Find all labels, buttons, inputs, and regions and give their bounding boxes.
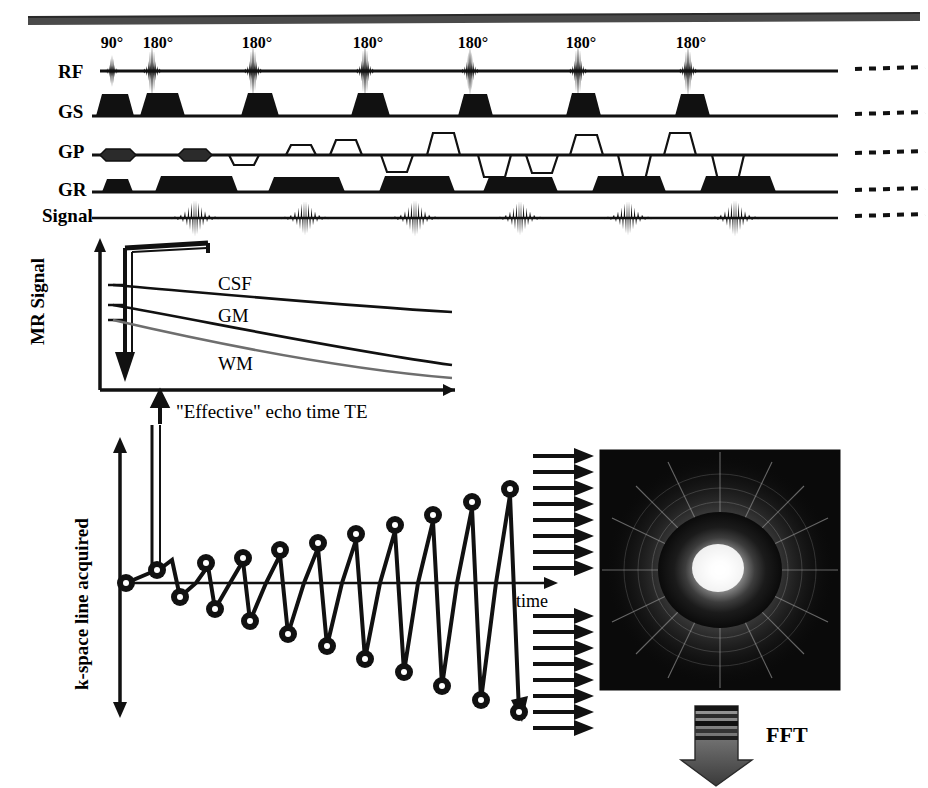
rf-label-180-4: 180° bbox=[458, 34, 488, 51]
channel-label-signal: Signal bbox=[42, 205, 93, 226]
decay-curve-label-csf: CSF bbox=[218, 273, 252, 294]
rf-label-90: 90° bbox=[101, 34, 123, 51]
rf-label-180-5: 180° bbox=[566, 34, 596, 51]
decay-curve-label-wm: WM bbox=[218, 353, 253, 374]
decay-x-axis-label: "Effective" echo time TE bbox=[176, 401, 368, 422]
rf-label-180-6: 180° bbox=[676, 34, 706, 51]
channel-label-rf: RF bbox=[58, 61, 83, 82]
kspace-time-label: time bbox=[516, 591, 548, 611]
mri-sequence-figure: RF GS GP GR Signal 90° 180° 180° 180° 18… bbox=[0, 0, 928, 788]
rf-label-180-2: 180° bbox=[242, 34, 272, 51]
decay-curve-label-gm: GM bbox=[218, 305, 249, 326]
kspace-y-axis-label: k-space line acquired bbox=[71, 518, 92, 690]
kspace-image bbox=[600, 450, 840, 690]
channel-label-gp: GP bbox=[58, 141, 85, 162]
channel-label-gs: GS bbox=[58, 101, 83, 122]
fft-label: FFT bbox=[766, 722, 808, 747]
channel-label-gr: GR bbox=[58, 179, 87, 200]
rf-label-180-3: 180° bbox=[353, 34, 383, 51]
figure-canvas: RF GS GP GR Signal 90° 180° 180° 180° 18… bbox=[0, 0, 928, 788]
rf-label-180-1: 180° bbox=[143, 34, 173, 51]
decay-y-axis-label: MR Signal bbox=[27, 258, 48, 345]
